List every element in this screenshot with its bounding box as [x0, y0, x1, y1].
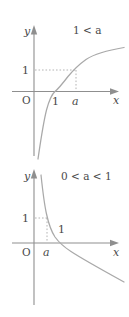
x-tick-label-1-bottom: 1 [58, 223, 65, 236]
x-tick-label-1-top: 1 [52, 95, 59, 108]
y-tick-label-1-top: 1 [22, 64, 29, 77]
condition-label-bottom: 0 < a < 1 [61, 170, 112, 182]
x-axis-label-bottom: x [113, 246, 120, 259]
x-axis-label-top: x [113, 94, 120, 107]
chart-panel-a-greater-than-1: y x O 1 1 a 1 < a [0, 0, 129, 160]
y-axis-bottom [31, 169, 37, 305]
exponential-function-figure: y x O 1 1 a 1 < a [0, 0, 129, 317]
x-tick-label-a-bottom: a [43, 246, 50, 259]
y-axis-top [31, 25, 37, 156]
origin-label-bottom: O [22, 246, 31, 258]
curve-exponential-decreasing [41, 175, 124, 282]
guide-lines-bottom [35, 218, 47, 243]
curve-exponential-increasing [38, 48, 124, 160]
x-tick-label-a-top: a [72, 95, 79, 108]
y-tick-label-1-bottom: 1 [22, 212, 29, 225]
origin-label-top: O [22, 94, 31, 106]
chart-panel-a-between-0-and-1: y x O 1 a 1 0 < a < 1 [0, 157, 129, 317]
y-axis-label-bottom: y [23, 170, 31, 183]
guide-lines-top [35, 70, 76, 91]
y-axis-label-top: y [23, 25, 31, 38]
condition-label-top: 1 < a [73, 24, 101, 36]
